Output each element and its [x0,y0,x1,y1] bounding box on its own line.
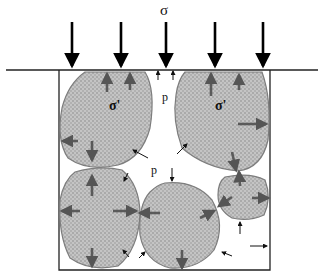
pore-pressure-label-mid: p [151,163,157,178]
effective-stress-diagram: σ p p σ' σ' [0,0,321,275]
diagram-canvas [0,0,321,275]
load-arrows [72,22,263,66]
pore-pressure-label-top: p [162,90,168,105]
effective-stress-label-left: σ' [109,98,121,114]
effective-stress-label-right: σ' [215,98,227,114]
total-stress-symbol: σ [160,2,168,19]
